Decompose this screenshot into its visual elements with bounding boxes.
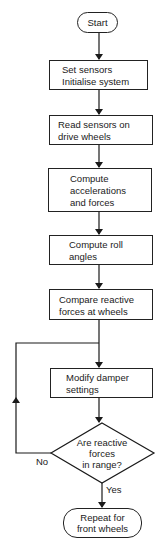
decision-label: Are reactive forces in range? xyxy=(66,437,138,470)
compute-roll-box: Compute roll angles xyxy=(49,235,153,265)
no-label: No xyxy=(36,456,48,467)
repeat-label: Repeat for front wheels xyxy=(77,512,128,534)
read-sensors-box: Read sensors on drive wheels xyxy=(49,115,153,145)
modify-damper-label: Modify damper settings xyxy=(51,372,152,396)
start-terminal: Start xyxy=(77,12,118,33)
compute-roll-label: Compute roll angles xyxy=(50,239,152,263)
read-sensors-label: Read sensors on drive wheels xyxy=(50,119,152,143)
start-label: Start xyxy=(87,17,107,29)
compute-accelerations-box: Compute accelerations and forces xyxy=(48,168,152,212)
yes-label: Yes xyxy=(106,484,122,495)
modify-damper-box: Modify damper settings xyxy=(50,368,153,398)
set-sensors-box: Set sensors Initialise system xyxy=(49,60,148,90)
set-sensors-label: Set sensors Initialise system xyxy=(50,64,147,88)
repeat-terminal: Repeat for front wheels xyxy=(63,508,142,538)
compare-reactive-label: Compare reactive forces at wheels xyxy=(50,294,152,318)
compute-accelerations-label: Compute accelerations and forces xyxy=(49,173,151,209)
compare-reactive-box: Compare reactive forces at wheels xyxy=(49,289,153,320)
